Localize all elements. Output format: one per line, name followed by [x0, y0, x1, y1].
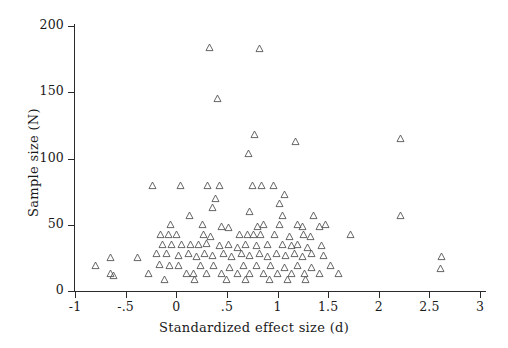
data-point-marker: [263, 252, 272, 261]
y-tick: [68, 159, 75, 160]
data-point-marker: [255, 44, 264, 53]
data-point-marker: [241, 240, 250, 249]
data-point-marker: [205, 43, 214, 52]
data-point-marker: [283, 275, 292, 284]
data-point-marker: [285, 232, 294, 241]
data-point-marker: [259, 269, 268, 278]
data-point-marker: [208, 203, 217, 212]
data-point-marker: [334, 269, 343, 278]
data-point-marker: [166, 220, 175, 229]
data-point-marker: [160, 275, 169, 284]
data-point-marker: [319, 251, 328, 260]
y-tick-label: 100: [40, 152, 64, 165]
data-point-marker: [162, 249, 171, 258]
x-tick-label: -1: [55, 301, 95, 314]
data-point-marker: [299, 230, 308, 239]
data-point-marker: [301, 275, 310, 284]
data-point-marker: [280, 190, 289, 199]
data-point-marker: [293, 220, 302, 229]
data-point-marker: [287, 241, 296, 250]
x-tick: [75, 292, 76, 298]
y-tick-label: 0: [56, 284, 64, 297]
data-point-marker: [396, 211, 405, 220]
data-point-marker: [174, 251, 183, 260]
data-point-marker: [215, 181, 224, 190]
y-tick: [68, 291, 75, 292]
data-point-marker: [213, 94, 222, 103]
data-point-marker: [300, 269, 309, 278]
data-point-marker: [263, 240, 272, 249]
data-point-marker: [249, 230, 258, 239]
data-point-marker: [265, 275, 274, 284]
y-tick: [68, 92, 75, 93]
data-point-marker: [144, 269, 153, 278]
data-point-marker: [222, 275, 231, 284]
y-tick-label: 150: [40, 85, 64, 98]
data-point-marker: [186, 240, 195, 249]
data-point-marker: [317, 241, 326, 250]
x-tick-label: .5: [207, 301, 247, 314]
data-point-marker: [253, 222, 262, 231]
data-point-marker: [184, 249, 193, 258]
x-tick-label: 1: [258, 301, 298, 314]
data-point-marker: [245, 251, 254, 260]
data-point-marker: [273, 269, 282, 278]
data-point-marker: [307, 249, 316, 258]
data-point-marker: [237, 249, 246, 258]
data-point-marker: [245, 269, 254, 278]
data-point-marker: [278, 240, 287, 249]
data-point-marker: [217, 269, 226, 278]
data-point-marker: [245, 207, 254, 216]
data-point-marker: [199, 230, 208, 239]
data-point-marker: [250, 130, 259, 139]
data-point-marker: [182, 269, 191, 278]
x-tick: [278, 292, 279, 298]
data-point-marker: [233, 243, 242, 252]
data-point-marker: [217, 222, 226, 231]
data-point-marker: [198, 220, 207, 229]
data-point-marker: [106, 253, 115, 262]
data-point-marker: [315, 222, 324, 231]
x-tick: [480, 292, 481, 298]
data-point-marker: [278, 211, 287, 220]
data-point-marker: [202, 239, 211, 248]
y-tick: [68, 225, 75, 226]
data-point-marker: [172, 230, 181, 239]
data-point-marker: [346, 230, 355, 239]
x-tick: [379, 292, 380, 298]
data-point-marker: [196, 261, 205, 270]
x-tick: [176, 292, 177, 298]
data-point-marker: [241, 275, 250, 284]
data-point-marker: [167, 240, 176, 249]
data-point-marker: [281, 251, 290, 260]
data-point-marker: [194, 240, 203, 249]
data-point-marker: [165, 261, 174, 270]
data-point-marker: [239, 261, 248, 270]
data-point-marker: [269, 181, 278, 190]
data-point-marker: [275, 199, 284, 208]
data-point-marker: [287, 269, 296, 278]
data-point-marker: [309, 211, 318, 220]
data-point-marker: [200, 249, 209, 258]
x-tick: [126, 292, 127, 298]
data-point-marker: [155, 260, 164, 269]
data-point-marker: [215, 241, 224, 250]
data-point-marker: [259, 220, 268, 229]
data-point-marker: [133, 253, 142, 262]
data-point-marker: [306, 232, 315, 241]
data-point-marker: [225, 263, 234, 272]
x-tick: [328, 292, 329, 298]
data-point-marker: [224, 223, 233, 232]
x-tick-label: 0: [156, 301, 196, 314]
data-point-marker: [252, 261, 261, 270]
data-point-marker: [224, 240, 233, 249]
data-point-marker: [315, 269, 324, 278]
data-point-marker: [290, 249, 299, 258]
data-point-marker: [192, 252, 201, 261]
data-point-marker: [293, 261, 302, 270]
data-point-marker: [270, 230, 279, 239]
data-point-marker: [152, 249, 161, 258]
data-point-marker: [190, 275, 199, 284]
data-point-marker: [280, 263, 289, 272]
data-point-marker: [266, 261, 275, 270]
